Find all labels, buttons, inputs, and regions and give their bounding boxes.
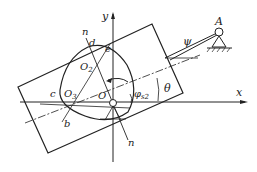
ground-hatch (207, 48, 230, 52)
c-label: c (50, 88, 56, 99)
cam-center-o (110, 100, 117, 107)
pivot-a-label: A (214, 15, 223, 28)
e-label: e (105, 43, 111, 54)
cam-mechanism-diagram: y x A ψ θ φs2 n n d e c b O O2 O3 (0, 0, 257, 172)
pivot-support (212, 36, 226, 47)
x-axis-label: x (236, 86, 243, 99)
phi-label: φs2 (134, 88, 150, 101)
n-top-label: n (82, 26, 88, 37)
x-axis-arrow (240, 100, 248, 104)
construction-line-1 (62, 44, 110, 122)
follower-frame (18, 24, 183, 153)
psi-label: ψ (183, 35, 192, 48)
o-label: O (98, 90, 106, 101)
n-bottom-label: n (128, 137, 134, 148)
o3-label: O3 (64, 88, 77, 101)
theta-label: θ (164, 82, 171, 95)
y-axis-arrow (111, 12, 115, 19)
cam-profile (60, 45, 134, 119)
d-label: d (89, 37, 95, 48)
pivot-a (215, 28, 223, 36)
b-label: b (64, 118, 70, 129)
theta-arc (157, 78, 159, 101)
rotation-arrowhead (106, 78, 112, 83)
o2-label: O2 (80, 61, 93, 74)
y-axis-label: y (101, 10, 109, 23)
